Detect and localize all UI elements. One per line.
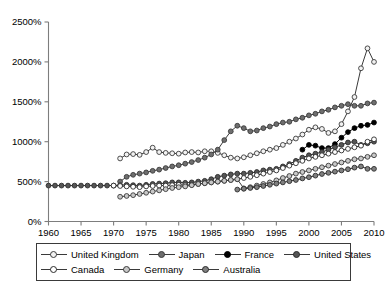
data-point bbox=[170, 164, 175, 169]
medium-gray-circle-marker-icon bbox=[193, 264, 219, 275]
data-point bbox=[274, 168, 279, 173]
data-point bbox=[131, 184, 136, 189]
data-point bbox=[131, 193, 136, 198]
data-point bbox=[85, 183, 90, 188]
legend-item-germany[interactable]: Germany bbox=[114, 264, 183, 275]
y-tick-label: 2000% bbox=[12, 56, 42, 67]
data-series-layer bbox=[46, 46, 376, 199]
data-point bbox=[313, 111, 318, 116]
x-tick-label: 1985 bbox=[201, 227, 222, 238]
data-point bbox=[352, 145, 357, 150]
data-point bbox=[346, 130, 351, 135]
data-point bbox=[313, 143, 318, 148]
data-point bbox=[320, 127, 325, 132]
data-point bbox=[248, 129, 253, 134]
legend-label: United Kingdom bbox=[71, 249, 139, 260]
data-point bbox=[320, 153, 325, 158]
legend-label: Canada bbox=[71, 264, 104, 275]
data-point bbox=[287, 119, 292, 124]
legend-label: France bbox=[245, 249, 275, 260]
data-point bbox=[339, 135, 344, 140]
data-point bbox=[313, 173, 318, 178]
x-axis-labels: 1960196519701975198019851990199520002005… bbox=[38, 227, 385, 238]
data-point bbox=[215, 147, 220, 152]
legend-item-united-states[interactable]: United States bbox=[284, 249, 371, 260]
data-point bbox=[222, 178, 227, 183]
data-point bbox=[339, 148, 344, 153]
data-point bbox=[365, 46, 370, 51]
data-point bbox=[189, 160, 194, 165]
y-tick-label: 0% bbox=[28, 216, 42, 227]
data-point bbox=[254, 128, 259, 133]
data-point bbox=[313, 166, 318, 171]
data-point bbox=[222, 153, 227, 158]
data-point bbox=[346, 140, 351, 145]
data-point bbox=[313, 154, 318, 159]
data-point bbox=[261, 149, 266, 154]
data-point bbox=[352, 139, 357, 144]
data-point bbox=[228, 178, 233, 183]
data-point bbox=[157, 188, 162, 193]
data-point bbox=[59, 183, 64, 188]
legend-item-australia[interactable]: Australia bbox=[193, 264, 260, 275]
x-axis-ticks bbox=[49, 222, 375, 226]
data-point bbox=[300, 147, 305, 152]
y-tick-label: 500% bbox=[17, 176, 42, 187]
data-point bbox=[359, 66, 364, 71]
legend-item-canada[interactable]: Canada bbox=[41, 264, 104, 275]
data-point bbox=[280, 180, 285, 185]
data-point bbox=[333, 105, 338, 110]
data-point bbox=[189, 150, 194, 155]
series-australia bbox=[235, 164, 377, 192]
data-point bbox=[124, 174, 129, 179]
data-point bbox=[359, 123, 364, 128]
data-point bbox=[346, 158, 351, 163]
data-point bbox=[183, 150, 188, 155]
gray-circle-marker-icon bbox=[149, 249, 175, 260]
x-tick-label: 2005 bbox=[331, 227, 352, 238]
series-france bbox=[300, 120, 376, 152]
plot-area: 0%500%1000%1500%2000%2500% 1960196519701… bbox=[0, 0, 387, 240]
data-point bbox=[372, 60, 377, 65]
x-tick-label: 1970 bbox=[103, 227, 124, 238]
data-point bbox=[222, 173, 227, 178]
data-point bbox=[300, 176, 305, 181]
white-circle-marker-icon bbox=[41, 264, 67, 275]
data-point bbox=[241, 126, 246, 131]
legend-item-united-kingdom[interactable]: United Kingdom bbox=[41, 249, 139, 260]
data-point bbox=[287, 174, 292, 179]
data-point bbox=[254, 151, 259, 156]
data-point bbox=[359, 164, 364, 169]
legend-item-japan[interactable]: Japan bbox=[149, 249, 205, 260]
data-point bbox=[372, 153, 377, 158]
data-point bbox=[287, 163, 292, 168]
data-point bbox=[235, 177, 240, 182]
data-point bbox=[241, 186, 246, 191]
light-gray-circle-marker-icon bbox=[114, 264, 140, 275]
data-point bbox=[307, 156, 312, 161]
data-point bbox=[280, 120, 285, 125]
y-axis-labels: 0%500%1000%1500%2000%2500% bbox=[12, 16, 42, 227]
data-point bbox=[209, 152, 214, 157]
data-point bbox=[228, 129, 233, 134]
data-point bbox=[307, 142, 312, 147]
data-point bbox=[365, 123, 370, 128]
data-point bbox=[144, 170, 149, 175]
data-point bbox=[333, 169, 338, 174]
data-point bbox=[215, 179, 220, 184]
data-point bbox=[131, 172, 136, 177]
data-point bbox=[189, 183, 194, 188]
legend-item-france[interactable]: France bbox=[215, 249, 275, 260]
chart-legend: United KingdomJapanFranceUnited StatesCa… bbox=[36, 243, 351, 281]
y-tick-label: 2500% bbox=[12, 16, 42, 27]
data-point bbox=[346, 109, 351, 114]
data-point bbox=[170, 151, 175, 156]
data-point bbox=[372, 166, 377, 171]
data-point bbox=[222, 138, 227, 143]
data-point bbox=[150, 145, 155, 150]
data-point bbox=[352, 95, 357, 100]
data-point bbox=[333, 145, 338, 150]
data-point bbox=[163, 150, 168, 155]
data-point bbox=[248, 174, 253, 179]
data-point bbox=[320, 165, 325, 170]
